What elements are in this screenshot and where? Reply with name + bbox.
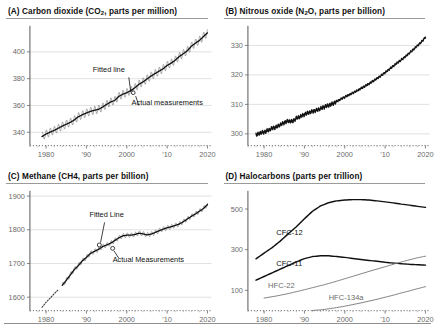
svg-text:'90: '90 (299, 150, 309, 159)
panel-b-plot-area: 3003103203301980'902000'102020 (218, 20, 435, 165)
panel-a-title-suffix: , parts per million) (104, 7, 177, 16)
svg-text:'90: '90 (82, 150, 92, 159)
greenhouse-gas-figure: (A) Carbon dioxide (CO2, parts per milli… (0, 0, 435, 330)
panel-d-plot-area: 1003005001980'902000'102020CFC-12CFC-11H… (218, 185, 435, 330)
halocarbons-chart: 1003005001980'902000'102020CFC-12CFC-11H… (218, 185, 435, 330)
panel-methane: (C) Methane (CH4, parts per billion) 160… (0, 165, 218, 330)
svg-text:300: 300 (230, 245, 242, 254)
svg-text:1600: 1600 (9, 293, 25, 302)
co2-chart: 3403603804001980'902000'102020Fitted lin… (0, 20, 218, 165)
svg-text:1980: 1980 (38, 150, 54, 159)
panel-d-title: (D) Halocarbons (parts per trillion) (224, 170, 426, 184)
svg-text:380: 380 (13, 74, 25, 83)
panel-halocarbons: (D) Halocarbons (parts per trillion) 100… (218, 165, 435, 330)
svg-text:Fitted Line: Fitted Line (89, 210, 123, 219)
panel-a-title-prefix: (A) Carbon dioxide (CO (8, 7, 101, 16)
footer-rule (4, 323, 431, 324)
panel-c-plot-area: 16001700180019001980'902000'102020Fitted… (0, 185, 218, 330)
svg-text:400: 400 (13, 47, 25, 56)
panel-c-title: (C) Methane (CH4, parts per billion) (6, 170, 208, 184)
svg-text:2020: 2020 (199, 150, 215, 159)
panel-nitrous-oxide: (B) Nitrous oxide (N2O, parts per billio… (218, 0, 435, 165)
svg-text:360: 360 (13, 101, 25, 110)
panel-carbon-dioxide: (A) Carbon dioxide (CO2, parts per milli… (0, 0, 218, 165)
svg-text:'10: '10 (380, 150, 390, 159)
series-label-cfc-11: CFC-11 (276, 259, 302, 268)
svg-text:1980: 1980 (255, 150, 271, 159)
panel-a-plot-area: 3403603804001980'902000'102020Fitted lin… (0, 20, 218, 165)
ch4-chart: 16001700180019001980'902000'102020Fitted… (0, 185, 218, 330)
svg-text:Actual Measurements: Actual Measurements (113, 255, 185, 264)
series-label-cfc-12: CFC-12 (276, 229, 303, 238)
svg-text:2000: 2000 (336, 150, 352, 159)
svg-text:1900: 1900 (9, 192, 25, 201)
svg-text:340: 340 (13, 128, 25, 137)
panel-b-title-suffix: O, parts per billion) (308, 7, 385, 16)
svg-text:Fitted line: Fitted line (93, 65, 125, 74)
svg-text:300: 300 (230, 129, 242, 138)
panel-b-title: (B) Nitrous oxide (N2O, parts per billio… (224, 5, 426, 19)
svg-text:Actual measurements: Actual measurements (132, 98, 204, 107)
svg-text:1800: 1800 (9, 225, 25, 234)
svg-text:'10: '10 (162, 150, 172, 159)
svg-text:2000: 2000 (119, 150, 135, 159)
svg-text:330: 330 (230, 41, 242, 50)
series-label-hfc-134a: HFC-134a (328, 293, 364, 302)
panel-b-title-prefix: (B) Nitrous oxide (N (226, 7, 305, 16)
svg-text:310: 310 (230, 100, 242, 109)
panel-a-title: (A) Carbon dioxide (CO2, parts per milli… (6, 5, 208, 19)
n2o-chart: 3003103203301980'902000'102020 (218, 20, 435, 165)
series-label-hfc-22: HFC-22 (268, 281, 295, 290)
svg-text:500: 500 (230, 205, 242, 214)
svg-text:100: 100 (230, 286, 242, 295)
svg-text:320: 320 (230, 71, 242, 80)
svg-text:1700: 1700 (9, 259, 25, 268)
svg-text:2020: 2020 (417, 150, 433, 159)
